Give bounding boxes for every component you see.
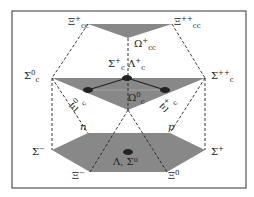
- label-lambda-sigma0: Λ, Σ⁰: [113, 157, 138, 167]
- label-xi-cc-pp: Ξ++cc: [174, 16, 201, 30]
- label-sigma-c0: Σ0c: [24, 70, 39, 84]
- label-xi-zero: Ξ0: [168, 170, 180, 181]
- label-sigma-plus: Σ+: [211, 146, 224, 157]
- label-omega-cc: Ω+cc: [134, 38, 156, 52]
- label-p: p: [168, 122, 174, 132]
- label-xi-cc-plus: Ξ+cc: [68, 16, 89, 30]
- top-triangle: [88, 24, 172, 38]
- label-n: n: [80, 122, 86, 132]
- baryon-multiplet-diagram: Ξ+cc Ξ++cc Ω+cc Σ0c Σ++c Σ+c Λ+c Ξ0c Ξ+c…: [0, 0, 254, 197]
- label-sigma-minus: Σ−: [32, 146, 45, 157]
- label-sigma-lambda-c: Σ+c Λ+c: [108, 58, 145, 72]
- label-omega-c0: Ω0c: [128, 92, 145, 106]
- diagram-graphics: [0, 0, 254, 197]
- label-xi-minus: Ξ−: [72, 170, 85, 181]
- label-sigma-c-pp: Σ++c: [211, 70, 234, 84]
